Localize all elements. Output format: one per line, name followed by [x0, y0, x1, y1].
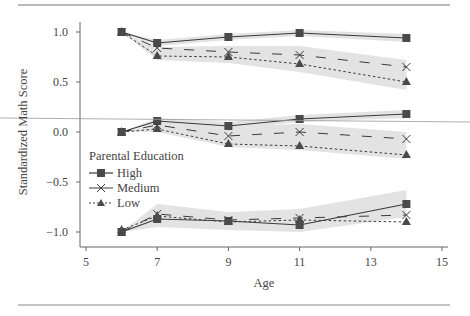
legend-label-high: High	[117, 166, 143, 180]
y-axis-ticks: 1.00.50.0−0.5−1.0	[46, 25, 80, 239]
legend-title: Parental Education	[89, 149, 185, 163]
x-tick-label: 15	[436, 255, 448, 269]
x-tick-label: 5	[83, 255, 89, 269]
confidence-band	[122, 190, 407, 232]
x-tick-label: 9	[225, 255, 231, 269]
legend-item-high: High	[89, 166, 143, 180]
square-marker-icon	[296, 29, 304, 37]
y-tick-label: −1.0	[46, 225, 68, 239]
square-marker-icon	[296, 115, 304, 123]
x-tick-label: 13	[365, 255, 377, 269]
square-marker-icon	[97, 169, 105, 177]
legend-label-medium: Medium	[117, 181, 160, 195]
y-axis-title: Standardized Math Score	[16, 68, 30, 195]
line-chart: 1.00.50.0−0.5−1.0 579111315 Age Standard…	[0, 0, 470, 316]
y-tick-label: 1.0	[53, 25, 68, 39]
confidence-band	[122, 30, 407, 46]
square-marker-icon	[402, 200, 410, 208]
y-tick-label: 0.5	[53, 75, 68, 89]
x-axis-title: Age	[254, 276, 275, 290]
y-tick-label: 0.0	[53, 125, 68, 139]
confidence-bands	[122, 30, 407, 232]
legend: Parental Education High Medium Low	[89, 149, 185, 210]
square-marker-icon	[402, 110, 410, 118]
legend-item-low: Low	[89, 196, 140, 210]
square-marker-icon	[224, 33, 232, 41]
square-marker-icon	[224, 122, 232, 130]
x-tick-label: 11	[294, 255, 306, 269]
square-marker-icon	[402, 34, 410, 42]
legend-item-medium: Medium	[89, 181, 160, 195]
x-axis-ticks: 579111315	[83, 247, 448, 269]
y-tick-label: −0.5	[46, 175, 68, 189]
legend-label-low: Low	[117, 196, 140, 210]
x-tick-label: 7	[154, 255, 160, 269]
square-marker-icon	[153, 117, 161, 125]
